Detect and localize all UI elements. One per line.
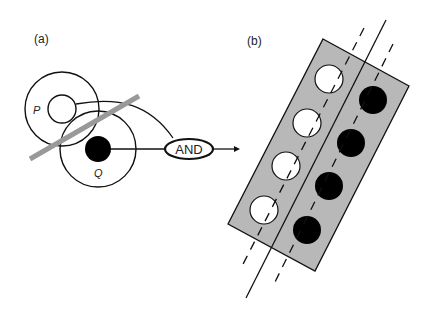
black-dot (315, 172, 343, 200)
white-dot (293, 109, 321, 137)
black-dot (359, 86, 387, 114)
panel-a-label: (a) (34, 32, 49, 46)
label-q: Q (94, 167, 103, 179)
label-p: P (33, 104, 41, 116)
diagram-canvas: (a) P Q AND (b) (0, 0, 437, 310)
white-dot (272, 152, 300, 180)
arrow-head-icon (234, 146, 240, 152)
white-dot (315, 65, 343, 93)
receptive-field-q-center (85, 136, 111, 162)
black-dot (293, 216, 321, 244)
and-gate-label: AND (175, 142, 202, 157)
panel-a: P Q AND (25, 72, 240, 187)
panel-b (228, 20, 409, 298)
white-dot (250, 196, 278, 224)
receptive-field-p-center (48, 95, 76, 123)
black-dot (337, 129, 365, 157)
panel-b-label: (b) (247, 34, 262, 48)
